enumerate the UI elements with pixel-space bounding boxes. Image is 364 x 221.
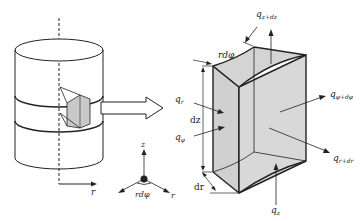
flux-label-q-r-dr: qr+dr [333,153,355,164]
dr-label: dr [194,182,205,192]
coordinate-system [118,149,170,193]
svg-text:qr+dr: qr+dr [333,153,355,164]
diagram-canvas: r z r rdφ dz [0,0,364,221]
svg-text:qr: qr [175,94,185,105]
svg-text:qz+dz: qz+dz [256,9,278,20]
flux-label-q-phi-dphi: qφ+dφ [330,89,354,101]
flux-label-q-z-dz: qz+dz [256,9,278,20]
flux-label-q-r: qr [175,94,185,105]
angle-label: rdφ [135,190,150,199]
svg-text:qz: qz [271,205,281,216]
volume-element [213,47,306,193]
transition-arrow-icon [101,97,163,119]
flux-label-q-z: qz [271,205,281,216]
rdphi-label: rdφ [218,50,235,60]
svg-text:qφ: qφ [175,132,186,144]
dz-label: dz [190,115,201,125]
r-axis-label: r [171,191,176,200]
z-axis-label: z [140,140,146,149]
cylinder-r-label: r [91,187,96,197]
dz-dimension [201,66,212,172]
svg-text:qφ+dφ: qφ+dφ [330,89,354,101]
flux-label-q-phi: qφ [175,132,186,144]
